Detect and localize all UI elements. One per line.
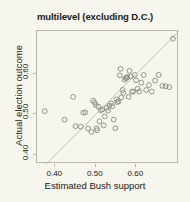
data-point [89, 129, 94, 134]
data-point [149, 89, 154, 94]
data-point [144, 88, 149, 93]
data-point [101, 123, 106, 128]
scatter-plot-figure: multilevel (excluding D.C.) 0.400.500.60… [0, 0, 190, 202]
data-point [126, 94, 131, 99]
data-point [97, 119, 102, 124]
data-point [78, 124, 83, 129]
data-point [121, 90, 126, 95]
plot-area [36, 30, 178, 163]
plot-canvas [37, 31, 179, 164]
y-tick-mark [33, 113, 36, 114]
data-point [153, 78, 158, 83]
chart-title: multilevel (excluding D.C.) [0, 11, 190, 22]
x-tick-mark [54, 164, 55, 167]
x-tick-label: 0.60 [120, 169, 150, 178]
data-point [139, 80, 144, 85]
data-point [141, 73, 146, 78]
data-point [71, 94, 76, 99]
x-tick-label: 0.50 [80, 169, 110, 178]
data-point [102, 114, 107, 119]
data-point [113, 126, 118, 131]
data-point [156, 73, 161, 78]
data-point [62, 117, 67, 122]
y-tick-mark [33, 73, 36, 74]
data-point [73, 124, 78, 129]
y-tick-mark [33, 154, 36, 155]
data-point [106, 108, 111, 113]
data-point [147, 83, 152, 88]
x-tick-label: 0.40 [39, 169, 69, 178]
data-point [117, 73, 122, 78]
data-point [111, 117, 116, 122]
data-point [110, 104, 115, 109]
x-tick-mark [95, 164, 96, 167]
data-points-group [42, 36, 175, 134]
data-point [127, 68, 132, 73]
x-axis-title: Estimated Bush support [0, 180, 190, 191]
data-point [134, 78, 139, 83]
y-axis-title: Actual election outcome [13, 26, 24, 166]
data-point [118, 66, 123, 71]
identity-reference-line [46, 31, 179, 164]
x-tick-mark [135, 164, 136, 167]
data-point [42, 109, 47, 114]
